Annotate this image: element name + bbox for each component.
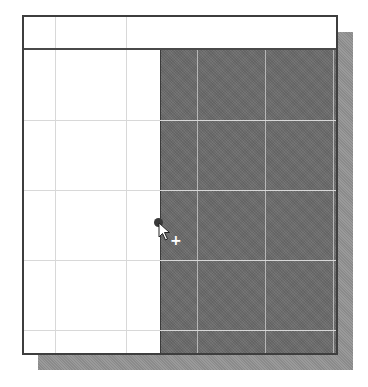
grid-row-line: [24, 120, 336, 121]
header-column-divider: [55, 17, 56, 48]
header-row: [24, 17, 336, 50]
grid-column-line: [265, 50, 266, 353]
grid-frame: [22, 15, 338, 355]
plus-icon: +: [170, 233, 182, 247]
selected-region[interactable]: [160, 50, 336, 353]
grid-column-line: [55, 17, 56, 353]
grid-row-line: [24, 190, 336, 191]
grid-row-line: [24, 330, 336, 331]
grid-column-line: [333, 50, 334, 353]
header-column-divider: [126, 17, 127, 48]
grid-column-line: [126, 17, 127, 353]
grid-column-line: [197, 50, 198, 353]
grid-row-line: [24, 260, 336, 261]
